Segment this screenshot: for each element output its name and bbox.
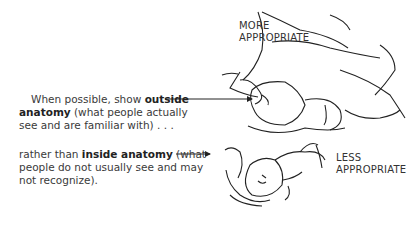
- inside-anatomy-illustration: [225, 144, 325, 206]
- outside-anatomy-caption: When possible, show outside anatomy (wha…: [19, 93, 209, 132]
- less-appropriate-label: LESS APPROPRIATE: [336, 152, 406, 176]
- more-appropriate-label: MORE APPROPRIATE: [239, 20, 309, 44]
- inside-anatomy-caption: rather than inside anatomy (what people …: [19, 148, 209, 187]
